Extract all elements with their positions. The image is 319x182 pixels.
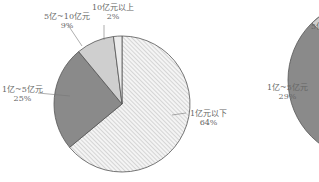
slice-pct: 2% xyxy=(92,12,134,21)
slice-pct: 25% xyxy=(2,94,43,103)
label-over-10yi: 10亿元以上 2% xyxy=(92,3,134,21)
slice-label: 1亿~5亿元 xyxy=(267,83,308,92)
label-1-5yi: 1亿~5亿元 25% xyxy=(2,85,43,103)
slice-pct: 64% xyxy=(190,118,227,127)
right-label-5-10yi: 5亿 xyxy=(311,22,319,31)
right-label-1-5yi: 1亿~5亿元 29% xyxy=(267,83,308,101)
slice-label: 1亿元以下 xyxy=(190,109,227,118)
slice-label: 10亿元以上 xyxy=(92,3,134,12)
slice-label: 5亿 xyxy=(311,22,319,31)
slice-label: 5亿~10亿元 xyxy=(44,12,90,21)
pie-left xyxy=(54,36,190,172)
slice-label: 1亿~5亿元 xyxy=(2,85,43,94)
slice-pct: 9% xyxy=(44,21,90,30)
label-5-10yi: 5亿~10亿元 9% xyxy=(44,12,90,30)
slice-pct: 29% xyxy=(267,92,308,101)
label-below-1yi: 1亿元以下 64% xyxy=(190,109,227,127)
